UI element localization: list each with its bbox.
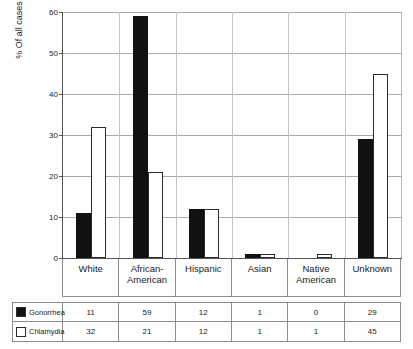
bar-gonorrhea-hispanic — [189, 209, 204, 258]
table-value-gonorrhea-asian: 1 — [232, 303, 288, 321]
category-separator-3 — [232, 12, 233, 258]
bar-gonorrhea-white — [76, 213, 91, 258]
y-tick-mark-20 — [59, 176, 63, 177]
table-value-gonorrhea-hispanic: 12 — [176, 303, 232, 321]
category-label-african-american: African-American — [119, 259, 175, 296]
category-separator-2 — [176, 12, 177, 258]
table-value-chlamydia-asian: 1 — [232, 322, 288, 341]
y-tick-label-50: 50 — [49, 49, 58, 58]
table-row: Chlamydia3221121145 — [13, 322, 400, 341]
bar-chlamydia-native-american — [317, 254, 332, 258]
bar-chlamydia-unknown — [373, 74, 388, 259]
y-axis-title: % Of all cases — [14, 0, 24, 90]
table-value-gonorrhea-white: 11 — [63, 303, 119, 321]
category-header-row: WhiteAfrican-AmericanHispanicAsianNative… — [62, 259, 401, 297]
category-separator-1 — [119, 12, 120, 258]
category-label-hispanic: Hispanic — [176, 259, 232, 296]
y-tick-label-20: 20 — [49, 172, 58, 181]
category-label-native-american: Native American — [288, 259, 344, 296]
table-value-gonorrhea-native-american: 0 — [288, 303, 344, 321]
bar-gonorrhea-african-american — [133, 16, 148, 258]
y-tick-mark-60 — [59, 12, 63, 13]
y-tick-mark-30 — [59, 135, 63, 136]
table-value-chlamydia-hispanic: 12 — [176, 322, 232, 341]
table-value-chlamydia-native-american: 1 — [288, 322, 344, 341]
legend-cell-chlamydia: Chlamydia — [13, 322, 63, 341]
y-tick-label-10: 10 — [49, 213, 58, 222]
bar-chlamydia-african-american — [148, 172, 163, 258]
table-value-gonorrhea-unknown: 29 — [345, 303, 400, 321]
table-row: Gonorrhea1159121029 — [13, 303, 400, 322]
hollow-white-square-icon — [16, 327, 26, 337]
y-tick-label-30: 30 — [49, 131, 58, 140]
bar-gonorrhea-asian — [245, 254, 260, 258]
category-label-asian: Asian — [232, 259, 288, 296]
bar-chlamydia-hispanic — [204, 209, 219, 258]
table-value-gonorrhea-african-american: 59 — [119, 303, 175, 321]
y-tick-mark-40 — [59, 94, 63, 95]
category-label-white: White — [63, 259, 119, 296]
category-separator-5 — [345, 12, 346, 258]
bar-gonorrhea-unknown — [358, 139, 373, 258]
data-table: Gonorrhea1159121029Chlamydia3221121145 — [12, 302, 401, 342]
y-tick-mark-10 — [59, 217, 63, 218]
legend-label-chlamydia: Chlamydia — [29, 327, 64, 336]
bar-chlamydia-white — [91, 127, 106, 258]
category-separator-4 — [288, 12, 289, 258]
table-value-chlamydia-african-american: 21 — [119, 322, 175, 341]
y-tick-label-0: 0 — [54, 254, 58, 263]
y-tick-label-40: 40 — [49, 90, 58, 99]
table-value-chlamydia-white: 32 — [63, 322, 119, 341]
bar-chlamydia-asian — [260, 254, 275, 258]
category-label-unknown: Unknown — [345, 259, 400, 296]
table-value-chlamydia-unknown: 45 — [345, 322, 400, 341]
filled-black-square-icon — [16, 307, 26, 317]
legend-cell-gonorrhea: Gonorrhea — [13, 303, 63, 321]
y-tick-label-60: 60 — [49, 8, 58, 17]
legend-label-gonorrhea: Gonorrhea — [29, 308, 65, 317]
y-tick-mark-50 — [59, 53, 63, 54]
plot-area: 0102030405060 — [62, 12, 401, 259]
